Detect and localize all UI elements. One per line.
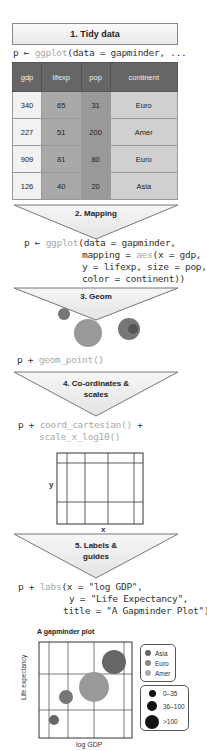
code-prefix: p +	[17, 354, 39, 365]
code-fn: scale_x_log10()	[39, 431, 120, 442]
point-euro-medium	[59, 690, 73, 704]
cell: 227	[13, 119, 42, 146]
size-dot-icon	[149, 690, 156, 697]
legend-label: 36–100	[163, 703, 185, 710]
point-small	[58, 308, 70, 320]
table-row: 227 51 200 Amer	[13, 119, 178, 146]
color-swatch-icon	[145, 670, 151, 676]
color-swatch-icon	[145, 650, 151, 656]
cell: 81	[41, 146, 81, 173]
code-prefix: p ←	[24, 237, 46, 248]
step-mapping-label: 2. Mapping	[12, 209, 180, 219]
coord-y-label: y	[49, 480, 53, 489]
code-prefix: p ←	[13, 47, 35, 58]
legend-label: Asia	[155, 650, 168, 657]
step-labels-funnel: 5. Labels & guides	[12, 532, 180, 580]
geom-points-illustration	[40, 300, 160, 360]
code-fn: aes	[136, 249, 152, 260]
code-prefix: p +	[18, 581, 40, 592]
cell: 126	[13, 173, 42, 200]
code-fn: ggplot	[35, 47, 68, 58]
step-tidy-data-label: 1. Tidy data	[70, 29, 119, 39]
code-labels-line3: title = "A Gapminder Plot")	[63, 605, 207, 617]
point-euro-large	[102, 650, 126, 674]
legend-item-asia: Asia	[145, 648, 171, 658]
final-y-label: Life expectancy	[20, 655, 27, 700]
legend-item-size-small: 0–35	[144, 688, 185, 699]
legend-item-amer: Amer	[145, 668, 171, 678]
legend-label: 0–35	[163, 690, 177, 697]
legend-label: >100	[163, 718, 178, 725]
cell: Euro	[110, 92, 177, 119]
step-mapping-funnel: 2. Mapping	[12, 203, 180, 241]
code-rest: (data = gapminder, ...	[67, 47, 186, 58]
header-continent: continent	[110, 63, 177, 92]
table-header-row: gdp lifexp pop continent	[13, 63, 178, 92]
cell: 51	[41, 119, 81, 146]
header-pop: pop	[81, 63, 110, 92]
step-coords-label-2: scales	[12, 390, 180, 400]
point-large	[74, 319, 102, 347]
code-coords: p + coord_cartesian() +	[18, 419, 143, 431]
code-fn: geom_point()	[39, 354, 104, 365]
code-fn: coord_cartesian()	[40, 419, 132, 430]
legend-size: 0–35 36–100 >100	[140, 685, 189, 731]
cell: 65	[41, 92, 81, 119]
header-lifexp: lifexp	[41, 63, 81, 92]
coord-panel	[56, 452, 146, 528]
cell: Amer	[110, 119, 177, 146]
final-x-label: log GDP	[76, 741, 102, 748]
code-rest: mapping =	[82, 249, 136, 260]
code-fn: labs	[40, 581, 62, 592]
color-swatch-icon	[145, 660, 151, 666]
legend-item-size-large: >100	[144, 713, 185, 730]
code-labels-line2: y = "Life Expectancy",	[69, 593, 188, 605]
code-tidy: p ← ggplot(data = gapminder, ...	[13, 47, 186, 59]
cell: 40	[41, 173, 81, 200]
code-mapping: p ← ggplot(data = gapminder,	[24, 237, 176, 249]
step-labels-label-2: guides	[12, 552, 180, 562]
code-rest: +	[132, 419, 143, 430]
legend-item-size-medium: 36–100	[144, 699, 185, 713]
final-plot-panel	[38, 641, 134, 741]
final-plot-title: A gapminder plot	[37, 628, 94, 635]
code-rest: (x = gdp,	[152, 249, 201, 260]
legend-color: Asia Euro Amer	[140, 644, 176, 682]
step-coords-funnel: 4. Co-ordinates & scales	[12, 370, 180, 418]
cell: 80	[81, 146, 110, 173]
code-rest: (x = "log GDP",	[61, 581, 142, 592]
legend-label: Amer	[155, 670, 171, 677]
cell: 909	[13, 146, 42, 173]
code-mapping-line3: y = lifexp, size = pop,	[82, 261, 207, 273]
step-coords-label: 4. Co-ordinates &	[12, 379, 180, 389]
header-gdp: gdp	[13, 63, 42, 92]
code-labels: p + labs(x = "log GDP",	[18, 581, 143, 593]
code-mapping-line2: mapping = aes(x = gdp,	[82, 249, 201, 261]
cell: Asia	[110, 173, 177, 200]
code-geom: p + geom_point()	[17, 354, 104, 366]
cell: 31	[81, 92, 110, 119]
code-fn: ggplot	[46, 237, 79, 248]
cell: 20	[81, 173, 110, 200]
code-mapping-line4: color = continent))	[82, 273, 185, 285]
point-overlap	[128, 324, 138, 334]
cell: Euro	[110, 146, 177, 173]
table-row: 340 65 31 Euro	[13, 92, 178, 119]
code-rest: (data = gapminder,	[78, 237, 176, 248]
step-labels-label: 5. Labels &	[12, 541, 180, 551]
code-prefix: p +	[18, 419, 40, 430]
legend-item-euro: Euro	[145, 658, 171, 668]
point-amer-xlarge	[79, 672, 109, 702]
code-coords-line2: scale_x_log10()	[39, 431, 120, 443]
legend-label: Euro	[155, 660, 169, 667]
tidy-data-table: gdp lifexp pop continent 340 65 31 Euro …	[12, 62, 178, 200]
cell: 340	[13, 92, 42, 119]
size-dot-icon	[147, 701, 157, 711]
cell: 200	[81, 119, 110, 146]
table-row: 909 81 80 Euro	[13, 146, 178, 173]
point-asia-small	[49, 715, 59, 725]
step-tidy-data-box: 1. Tidy data	[12, 23, 178, 45]
table-row: 126 40 20 Asia	[13, 173, 178, 200]
size-dot-icon	[145, 715, 159, 729]
